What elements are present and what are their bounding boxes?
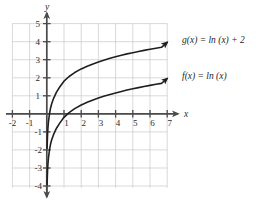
y-tick-label-3: 3 <box>36 55 41 65</box>
plot-canvas: -2 -1 1 2 3 4 5 6 7 5 4 3 2 1 -1 -2 -3 -… <box>0 0 258 204</box>
x-tick-label-6: 6 <box>150 118 155 128</box>
y-axis-label: y <box>44 2 50 12</box>
curve-f <box>47 79 167 185</box>
y-tick-label-4: 4 <box>36 37 41 47</box>
x-tick-label-3: 3 <box>99 118 104 128</box>
y-tick-label-5: 5 <box>36 19 41 29</box>
x-tick-label--1: -1 <box>26 118 34 128</box>
y-tick-label--1: -1 <box>35 127 43 137</box>
x-tick-label-4: 4 <box>116 118 121 128</box>
y-tick-label--2: -2 <box>35 145 43 155</box>
logarithm-graph-figure: -2 -1 1 2 3 4 5 6 7 5 4 3 2 1 -1 -2 -3 -… <box>0 0 258 204</box>
x-tick-label-5: 5 <box>133 118 138 128</box>
curve-label-g: g(x) = ln (x) + 2 <box>182 35 245 46</box>
x-tick-label-7: 7 <box>167 118 172 128</box>
x-axis-label: x <box>183 109 189 119</box>
x-tick-label-1: 1 <box>64 118 69 128</box>
x-tick-label-2: 2 <box>81 118 86 128</box>
y-tick-label-1: 1 <box>36 91 41 101</box>
y-tick-label-2: 2 <box>36 73 41 83</box>
x-tick-label--2: -2 <box>9 118 17 128</box>
y-tick-label--3: -3 <box>35 163 43 173</box>
y-tick-label--4: -4 <box>35 181 43 191</box>
curve-label-f: f(x) = ln (x) <box>182 71 227 82</box>
